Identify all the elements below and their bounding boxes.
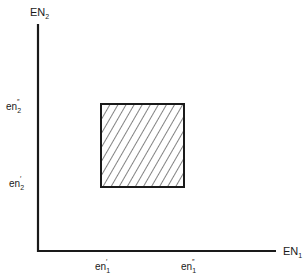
x-tick-label-left: en1′ [95,258,110,274]
y-tick-label-upper: en2″ [6,98,21,114]
x-tick-label-right: en1″ [181,258,196,274]
y-tick-label-lower: en2′ [9,175,24,191]
y-axis-title: EN2 [30,6,49,20]
diagram-canvas: EN2 EN1 en2″ en2′ en1′ en1″ [0,0,305,277]
hatched-region [101,104,184,187]
x-axis-title: EN1 [283,245,302,259]
